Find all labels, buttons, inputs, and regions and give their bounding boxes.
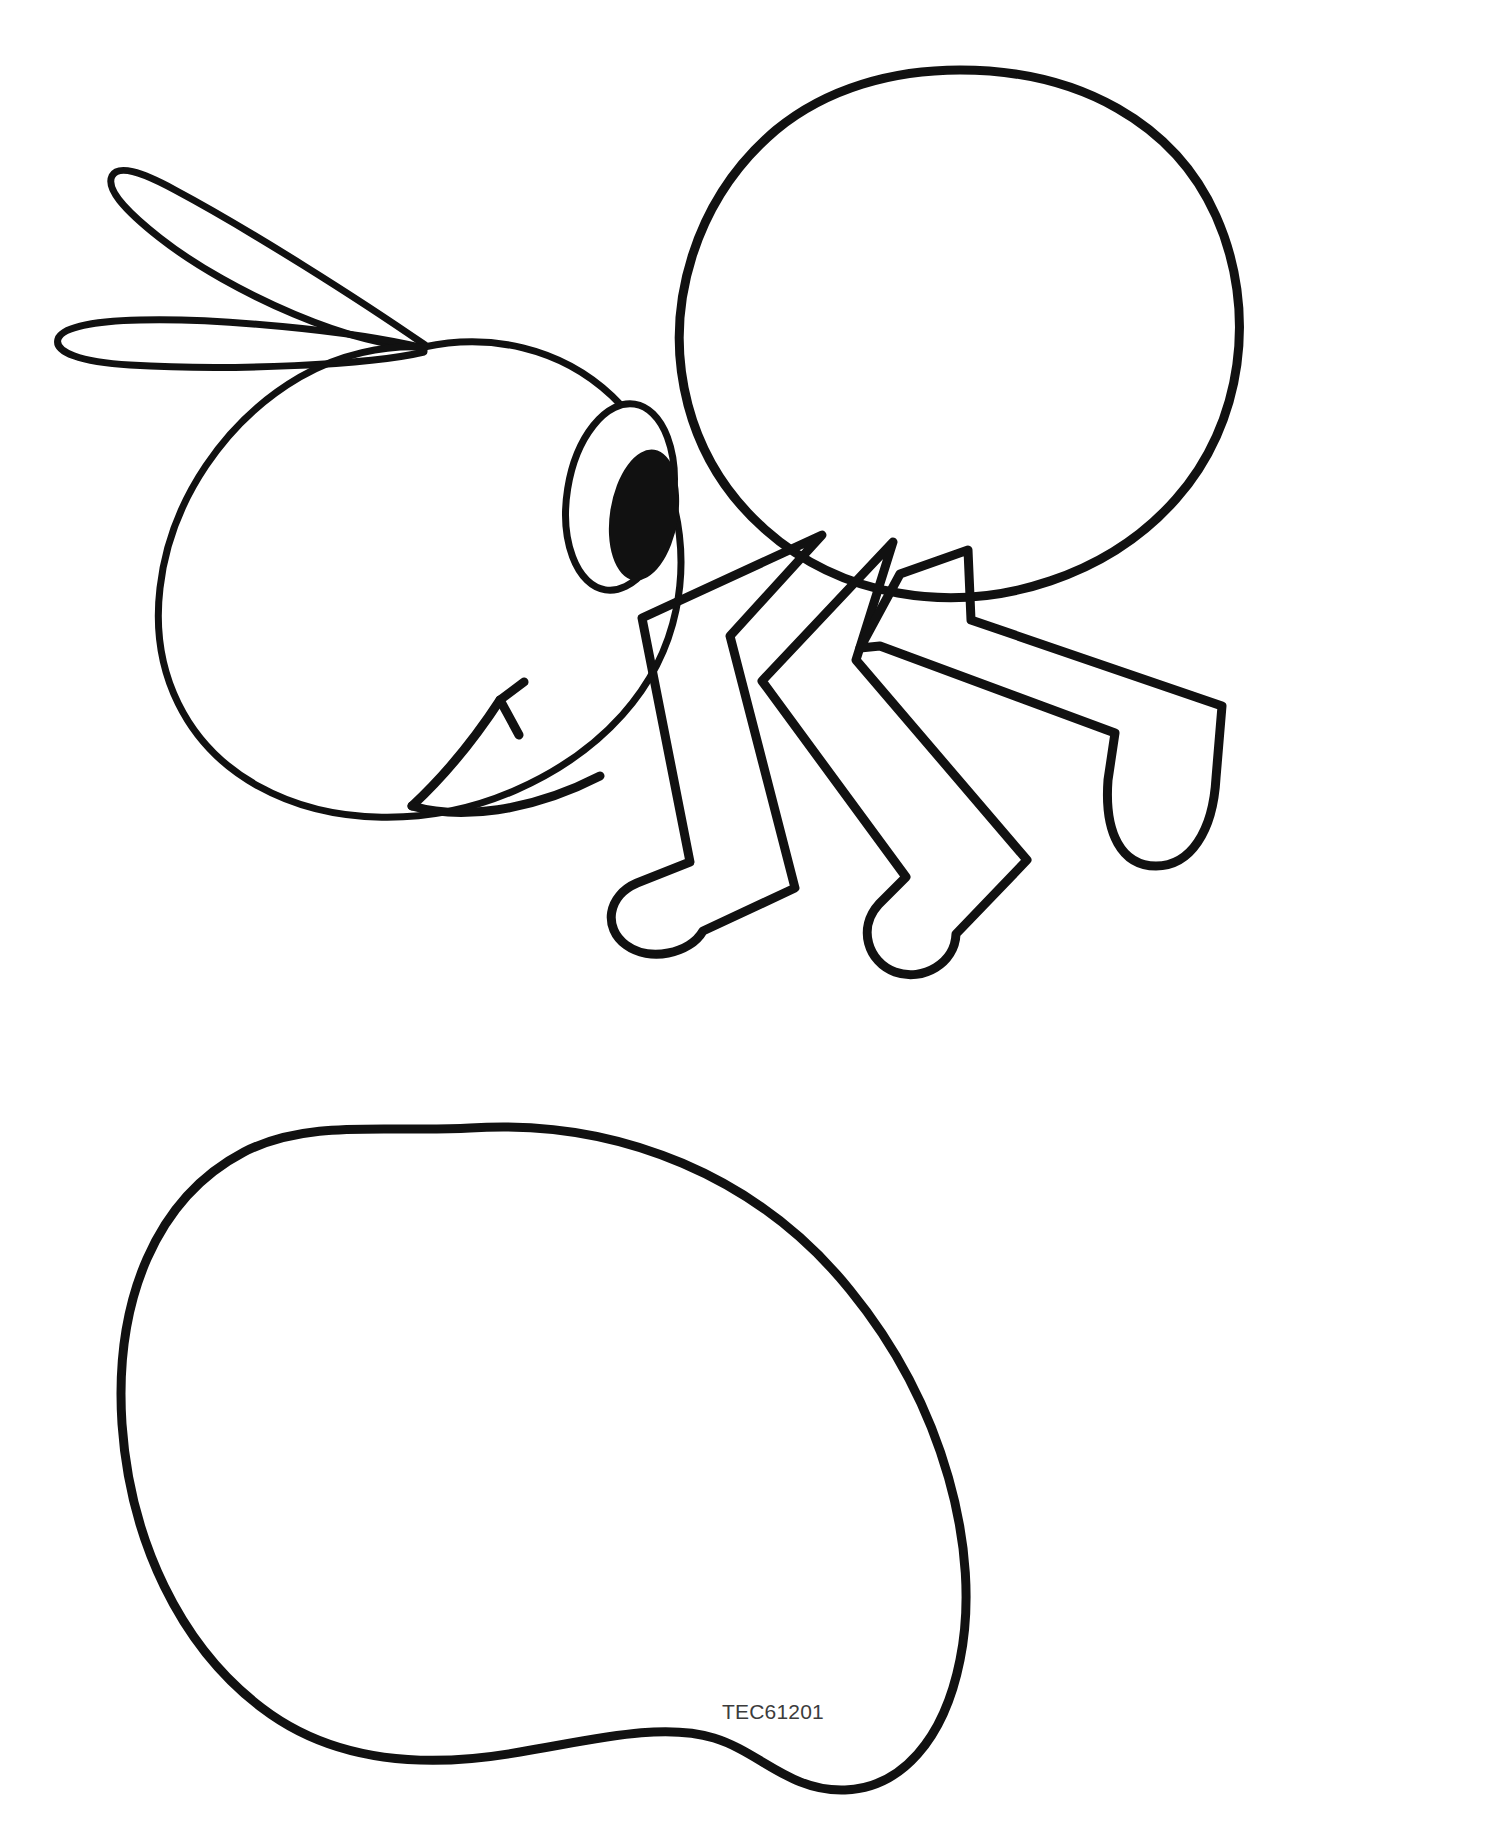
ant-template-artwork xyxy=(0,0,1494,1844)
page-root: y y p g xyxy=(0,0,1494,1844)
watermark-code: TEC61201 xyxy=(722,1700,824,1724)
